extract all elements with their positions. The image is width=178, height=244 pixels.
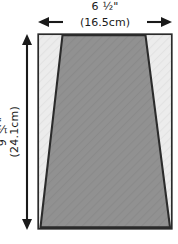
- figure-area: [37, 33, 173, 230]
- figure-svg: [37, 33, 173, 230]
- arrow-right-icon: [146, 15, 172, 29]
- arrow-down-icon: [22, 219, 32, 230]
- width-value-imperial: 6 ½": [38, 0, 172, 13]
- width-arrow-row: (16.5cm): [38, 14, 172, 30]
- height-dimension-group: 9 ½" (24.1cm): [0, 34, 36, 230]
- vertical-dimension-arrow-icon: [19, 34, 35, 230]
- width-value-metric: (16.5cm): [78, 16, 132, 29]
- arrow-left-icon: [38, 15, 64, 29]
- width-dimension-group: 6 ½" (16.5cm): [38, 0, 172, 30]
- dimensioned-trapezoid-diagram: 6 ½" (16.5cm) 9 ½" (24.1cm): [0, 0, 178, 244]
- height-arrow-wrap: [18, 34, 36, 230]
- height-labels: 9 ½" (24.1cm): [0, 34, 18, 230]
